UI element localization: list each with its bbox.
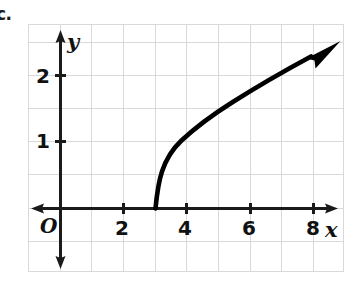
x-axis-label: x bbox=[324, 217, 338, 242]
y-axis-label: y bbox=[66, 29, 81, 54]
x-tick-label-2: 2 bbox=[115, 216, 129, 240]
coordinate-plane: y x O 2 4 6 8 1 2 bbox=[0, 0, 357, 293]
graph-figure: c. bbox=[0, 0, 357, 293]
x-tick-label-8: 8 bbox=[306, 216, 320, 240]
x-tick-label-4: 4 bbox=[178, 216, 192, 240]
y-tick-label-1: 1 bbox=[36, 129, 50, 153]
y-tick-label-2: 2 bbox=[36, 64, 50, 88]
origin-label: O bbox=[40, 214, 58, 238]
x-tick-label-6: 6 bbox=[242, 216, 256, 240]
